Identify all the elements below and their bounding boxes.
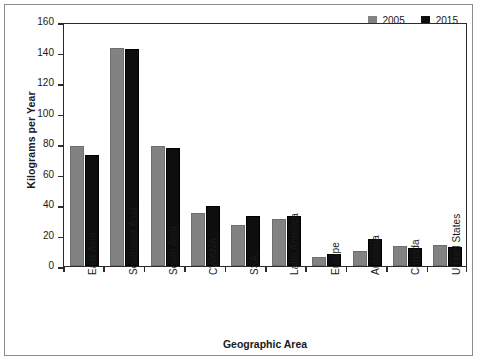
y-tick: 60 xyxy=(5,176,63,177)
y-tick-mark xyxy=(58,84,63,86)
y-tick-label: 20 xyxy=(43,230,54,241)
x-axis-label: CWANA xyxy=(208,238,219,275)
x-axis-label: United States xyxy=(451,214,462,275)
y-tick-mark xyxy=(58,206,63,208)
bars-layer xyxy=(64,24,466,266)
y-tick: 40 xyxy=(5,206,63,207)
y-tick-mark xyxy=(58,115,63,117)
bar-2005 xyxy=(110,48,124,266)
x-axis-title: Geographic Area xyxy=(63,338,467,350)
y-tick: 140 xyxy=(5,54,63,55)
x-tick-mark xyxy=(305,267,307,272)
y-tick-mark xyxy=(58,176,63,178)
y-tick-mark xyxy=(58,54,63,56)
bar-2005 xyxy=(231,225,245,266)
bar-2005 xyxy=(191,213,205,266)
bar-2005 xyxy=(393,246,407,266)
y-tick-label: 0 xyxy=(48,260,54,271)
bar-2005 xyxy=(353,251,367,266)
y-tick-mark xyxy=(58,145,63,147)
bar-2005 xyxy=(433,245,447,266)
bar-2005 xyxy=(272,219,286,266)
x-axis-label: Southeast Asia xyxy=(128,207,139,275)
bar-2005 xyxy=(70,146,84,266)
x-tick-mark xyxy=(427,267,429,272)
x-tick-mark xyxy=(386,267,388,272)
x-axis-label: Canada xyxy=(410,239,421,275)
y-tick-label: 120 xyxy=(37,77,54,88)
y-tick: 20 xyxy=(5,237,63,238)
x-tick-mark xyxy=(103,267,105,272)
x-axis-label: Europe xyxy=(330,242,341,275)
bar-group xyxy=(69,24,100,266)
y-tick-label: 60 xyxy=(43,169,54,180)
x-tick-mark xyxy=(63,267,65,272)
y-tick-label: 40 xyxy=(43,199,54,210)
x-tick-mark xyxy=(184,267,186,272)
bar-group xyxy=(392,24,423,266)
x-tick-mark xyxy=(265,267,267,272)
plot-inner xyxy=(64,24,466,266)
y-tick-label: 160 xyxy=(37,16,54,27)
x-tick-mark xyxy=(225,267,227,272)
bar-2005 xyxy=(312,257,326,266)
x-axis-label: East Asia xyxy=(87,232,98,275)
y-tick: 80 xyxy=(5,145,63,146)
y-tick-label: 80 xyxy=(43,138,54,149)
y-tick: 100 xyxy=(5,115,63,116)
chart-figure: Kilograms per Year 20052015 Geographic A… xyxy=(4,4,473,356)
y-tick: 160 xyxy=(5,23,63,24)
y-tick-label: 140 xyxy=(37,47,54,58)
y-tick: 120 xyxy=(5,84,63,85)
bar-group xyxy=(190,24,221,266)
y-tick-mark xyxy=(58,23,63,25)
x-tick-mark xyxy=(144,267,146,272)
x-tick-mark xyxy=(346,267,348,272)
bar-group xyxy=(230,24,261,266)
y-tick: 0 xyxy=(5,267,63,268)
y-tick-mark xyxy=(58,237,63,239)
bar-group xyxy=(311,24,342,266)
x-axis-label: Australia xyxy=(370,235,381,275)
x-axis-label: SSA xyxy=(249,255,260,275)
bar-group xyxy=(352,24,383,266)
plot-area xyxy=(63,23,467,267)
x-tick-mark xyxy=(466,267,468,272)
bar-2005 xyxy=(151,146,165,266)
y-tick-label: 100 xyxy=(37,108,54,119)
x-axis-label: South Asia xyxy=(168,226,179,275)
x-axis-label: Latin America xyxy=(289,213,300,275)
